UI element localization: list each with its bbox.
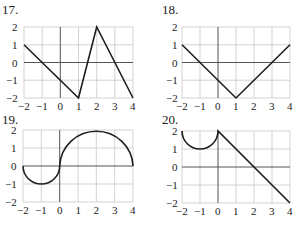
- svg-text:1: 1: [12, 39, 18, 51]
- svg-text:2: 2: [11, 124, 17, 136]
- svg-text:0: 0: [215, 205, 221, 217]
- svg-text:0: 0: [172, 57, 178, 69]
- svg-text:−2: −2: [17, 204, 29, 216]
- svg-text:1: 1: [233, 100, 239, 112]
- svg-text:−1: −1: [166, 74, 178, 86]
- svg-text:−1: −1: [36, 100, 48, 112]
- svg-text:−2: −2: [6, 92, 18, 104]
- graph-17-number: 17.: [2, 2, 18, 17]
- svg-text:4: 4: [287, 205, 293, 217]
- svg-text:4: 4: [130, 100, 136, 112]
- graph-20-x-ticks: −2 −1 0 1 2 3 4: [176, 205, 293, 217]
- svg-text:−1: −1: [194, 100, 206, 112]
- svg-text:3: 3: [112, 100, 118, 112]
- svg-text:−2: −2: [5, 196, 17, 208]
- graph-18-number: 18.: [162, 2, 178, 17]
- graph-18-y-ticks: 2 1 0 −1 −2: [166, 21, 178, 104]
- graph-18: 18. 2 1 0 −1 −2 −2 −1 0: [162, 2, 293, 112]
- svg-text:1: 1: [172, 39, 178, 51]
- svg-text:−1: −1: [35, 204, 47, 216]
- graph-17-x-ticks: −2 −1 0 1 2 3 4: [18, 100, 136, 112]
- svg-text:2: 2: [251, 100, 257, 112]
- graph-20: 20. 2 1 0 −1 −2 −2 −1 0: [162, 112, 293, 217]
- svg-text:2: 2: [172, 21, 178, 33]
- svg-text:−2: −2: [176, 205, 188, 217]
- svg-text:2: 2: [94, 100, 100, 112]
- svg-text:0: 0: [58, 100, 64, 112]
- svg-text:2: 2: [12, 21, 18, 33]
- svg-text:1: 1: [172, 143, 178, 155]
- svg-text:2: 2: [251, 205, 257, 217]
- graphs-figure: 17. 2 1 0 −1 −2 −2 −1 0: [0, 0, 302, 228]
- graph-17-y-ticks: 2 1 0 −1 −2: [6, 21, 18, 104]
- svg-text:0: 0: [172, 161, 178, 173]
- svg-text:1: 1: [233, 205, 239, 217]
- graph-17: 17. 2 1 0 −1 −2 −2 −1 0: [2, 2, 136, 112]
- svg-text:2: 2: [172, 125, 178, 137]
- svg-text:1: 1: [11, 142, 17, 154]
- svg-text:1: 1: [76, 100, 82, 112]
- svg-text:−2: −2: [18, 100, 30, 112]
- svg-text:2: 2: [94, 204, 100, 216]
- svg-text:−1: −1: [6, 74, 18, 86]
- svg-text:3: 3: [269, 205, 275, 217]
- svg-text:−1: −1: [194, 205, 206, 217]
- svg-text:0: 0: [11, 160, 17, 172]
- graph-20-y-ticks: 2 1 0 −1 −2: [166, 125, 178, 209]
- graph-19-y-ticks: 2 1 0 −1 −2: [5, 124, 17, 208]
- svg-text:−1: −1: [166, 179, 178, 191]
- svg-text:0: 0: [215, 100, 221, 112]
- graph-19-x-ticks: −2 −1 0 1 2 3 4: [17, 204, 136, 216]
- svg-text:0: 0: [12, 57, 18, 69]
- graph-19: 19. 2 1 0 −1 −2 −2 −1 0: [2, 112, 136, 216]
- svg-text:3: 3: [112, 204, 118, 216]
- svg-text:0: 0: [57, 204, 63, 216]
- svg-text:−2: −2: [176, 100, 188, 112]
- svg-text:1: 1: [76, 204, 82, 216]
- svg-text:4: 4: [130, 204, 136, 216]
- svg-text:3: 3: [269, 100, 275, 112]
- svg-text:4: 4: [287, 100, 293, 112]
- svg-text:−1: −1: [5, 178, 17, 190]
- graph-18-x-ticks: −2 −1 0 1 2 3 4: [176, 100, 293, 112]
